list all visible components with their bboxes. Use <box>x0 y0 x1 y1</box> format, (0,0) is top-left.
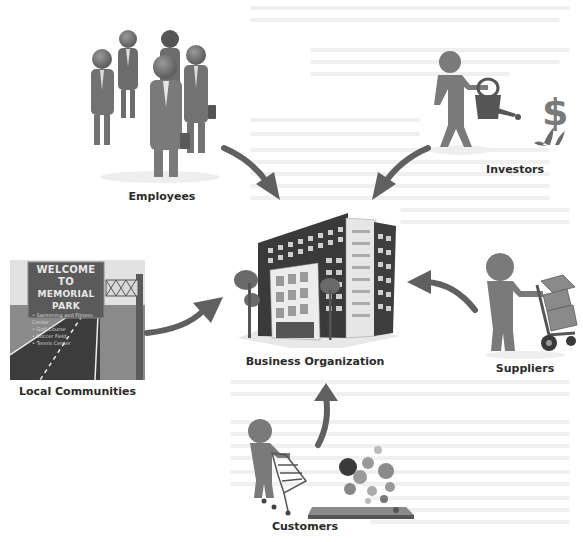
sign-title-line2: MEMORIAL PARK <box>28 288 104 312</box>
node-investors: $ <box>420 50 580 160</box>
sign-item: Golf Course <box>28 326 104 333</box>
park-sign: WELCOME TO MEMORIAL PARK Swimming and Fi… <box>28 264 104 347</box>
arrow-investors-to-business <box>360 140 430 210</box>
label-business-organization: Business Organization <box>230 355 400 368</box>
arrow-employees-to-business <box>222 140 292 210</box>
label-investors: Investors <box>480 163 550 176</box>
sign-title-line1: WELCOME TO <box>28 264 104 288</box>
node-business-organization <box>228 208 400 348</box>
arrow-local-communities-to-business <box>145 295 225 340</box>
supplier-handtruck-icon <box>475 245 580 360</box>
employees-group-icon <box>80 25 240 185</box>
sign-item: Soccer Field <box>28 333 104 340</box>
label-customers: Customers <box>270 520 340 533</box>
office-building-icon <box>228 208 400 348</box>
label-suppliers: Suppliers <box>480 362 570 375</box>
node-employees <box>80 25 240 185</box>
node-suppliers <box>475 245 580 360</box>
label-employees: Employees <box>117 190 207 203</box>
sign-item: Tennis Center <box>28 340 104 347</box>
label-local-communities: Local Communities <box>15 385 140 398</box>
sign-item: Swimming and Fitness Center <box>28 312 104 326</box>
arrow-customers-to-business <box>312 383 342 448</box>
arrow-suppliers-to-business <box>405 270 480 315</box>
investor-figure-icon: $ <box>420 50 580 160</box>
dollar-sign-icon: $ <box>542 90 568 134</box>
node-local-communities: WELCOME TO MEMORIAL PARK Swimming and Fi… <box>10 260 145 380</box>
